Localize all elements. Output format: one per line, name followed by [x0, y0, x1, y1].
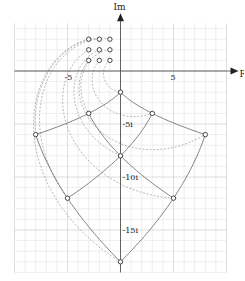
- tick-label-x: -5: [65, 73, 73, 82]
- tick-label-y: -5i: [123, 120, 134, 129]
- source-point: [108, 37, 112, 41]
- source-point: [97, 37, 101, 41]
- image-point: [118, 90, 122, 94]
- imaginary-axis-arrow-icon: [117, 13, 124, 21]
- source-point: [97, 58, 101, 62]
- source-point: [87, 48, 91, 52]
- imaginary-axis-label: Im: [114, 2, 127, 12]
- source-point: [108, 48, 112, 52]
- mapping-arc-dashed: [104, 60, 121, 92]
- mapping-arc-dashed: [40, 39, 100, 198]
- mapping-arc-dashed: [79, 60, 205, 149]
- image-point: [87, 111, 91, 115]
- image-point: [118, 260, 122, 264]
- source-point: [87, 37, 91, 41]
- mapping-arc-dashed: [34, 39, 121, 262]
- image-point: [65, 196, 69, 200]
- source-point: [108, 58, 112, 62]
- source-point: [87, 58, 91, 62]
- image-point: [203, 132, 207, 136]
- image-point: [150, 111, 154, 115]
- real-axis-label: Re: [240, 69, 245, 79]
- plot-canvas: Re Im -5 5 -5i -10i -15i: [0, 0, 244, 281]
- source-point: [97, 48, 101, 52]
- complex-plane-diagram: Re Im -5 5 -5i -10i -15i: [0, 0, 244, 281]
- image-point: [34, 132, 38, 136]
- tick-label-y: -10i: [123, 173, 139, 182]
- image-point: [171, 196, 175, 200]
- tick-label-y: -15i: [123, 226, 139, 235]
- mapping-arcs: [34, 38, 206, 262]
- image-point: [118, 154, 122, 158]
- tick-label-x: 5: [171, 73, 176, 82]
- real-axis-arrow-icon: [231, 68, 239, 75]
